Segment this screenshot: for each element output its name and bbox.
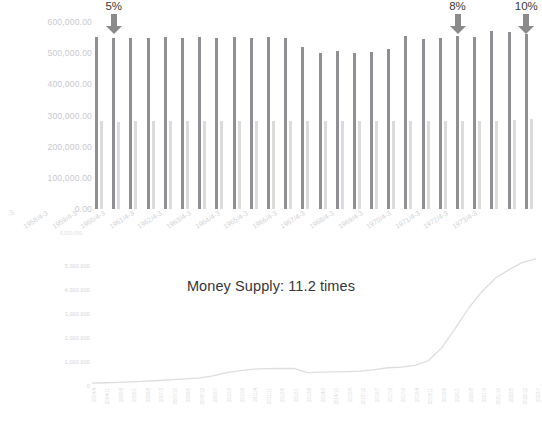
bar-series-deposits [198, 37, 201, 209]
reserve-ratio-10-label: 10% [514, 0, 538, 13]
bar-chart-x-tick: 1968/4-3 [308, 209, 335, 230]
bar-chart-y-tick: 500,000.00 [47, 48, 92, 58]
down-arrow-icon [102, 13, 126, 35]
line-chart-x-tick: 2022/12 [523, 388, 528, 405]
line-chart-x-tick: 2022/5 [509, 388, 514, 402]
bar-series-reserves [289, 121, 292, 209]
bar-series-reserves [461, 121, 464, 209]
bar-series-deposits [147, 38, 150, 209]
line-chart-x-tick: 2007/3 [159, 388, 164, 402]
line-chart-x-tick: 2004/11 [105, 388, 110, 404]
bar-series-reserves [324, 121, 327, 209]
bar-series-reserves [238, 121, 241, 209]
line-chart-x-tick: 2017/9 [401, 388, 406, 402]
bar-chart-x-tick: 1960/4-3 [79, 209, 106, 230]
bar-chart-x-tick: 1972/4-3 [422, 209, 449, 230]
bar-chart-x-tick: 1961/4-3 [108, 209, 135, 230]
bar-chart-y-tick: 300,000.00 [47, 111, 92, 121]
line-chart-x-tick: 2006/8 [146, 388, 151, 402]
bar-chart-x-tick: 1958/4-3 [22, 209, 49, 230]
line-chart-x-tick: 2011/4 [253, 388, 258, 402]
reserve-ratio-8-annotation: 8% [446, 0, 470, 35]
line-chart-x-tick: 2023/7 [536, 388, 541, 402]
line-chart-x-tick: 2016/7 [375, 388, 380, 402]
reserve-ratio-8-label: 8% [446, 0, 470, 13]
line-chart-x-tick: 2007/10 [173, 388, 178, 405]
bar-series-deposits [404, 36, 407, 209]
bar-series-deposits [456, 36, 459, 209]
line-chart-y-tick: 2,000,000 [65, 335, 90, 341]
money-supply-line [92, 242, 536, 386]
bar-series-reserves [495, 121, 498, 209]
bar-series-reserves [117, 122, 120, 209]
bar-series-deposits [301, 47, 304, 209]
bar-series-deposits [370, 52, 373, 209]
bar-series-deposits [250, 38, 253, 209]
line-chart-x-tick: 2020/8 [469, 388, 474, 402]
bar-series-deposits [439, 38, 442, 209]
bar-series-deposits [473, 37, 476, 209]
bar-series-deposits [267, 37, 270, 209]
bar-chart-x-tick: 1971/4-3 [394, 209, 421, 230]
bar-series-deposits [112, 38, 115, 209]
reserve-ratio-10-annotation: 10% [514, 0, 538, 35]
line-chart-y-tick: 5,000,000 [65, 263, 90, 269]
bar-chart-x-tick: 1965/4-3 [222, 209, 249, 230]
line-chart-x-tick: 2021/10 [496, 388, 501, 405]
line-chart-top-note: 6,000,000 [60, 230, 82, 236]
bar-series-reserves [427, 121, 430, 209]
line-chart-title: Money Supply: 11.2 times [0, 278, 542, 294]
line-chart-x-tick: 2009/7 [213, 388, 218, 402]
line-chart-y-tick: 1,000,000 [65, 359, 90, 365]
bar-series-reserves [375, 121, 378, 209]
bar-series-reserves [169, 121, 172, 209]
line-chart-x-tick: 2021/3 [482, 388, 487, 402]
bar-series-deposits [422, 39, 425, 209]
bar-chart-x-tick: -3 [6, 209, 15, 218]
line-chart-x-tick: 2018/11 [428, 388, 433, 404]
line-chart-x-tick: 2014/3 [321, 388, 326, 402]
bar-series-reserves [392, 121, 395, 209]
line-chart-x-tick: 2010/9 [240, 388, 245, 402]
bar-series-reserves [358, 121, 361, 209]
bar-series-reserves [530, 119, 533, 209]
bar-series-reserves [306, 121, 309, 209]
bar-series-reserves [272, 121, 275, 209]
bar-series-reserves [134, 121, 137, 209]
line-chart-plot-area [92, 242, 536, 386]
line-chart-x-tick: 2018/4 [415, 388, 420, 402]
down-arrow-icon [514, 13, 538, 35]
bar-chart-y-tick: 400,000.00 [47, 79, 92, 89]
bar-chart-x-tick: 1962/4-3 [136, 209, 163, 230]
bar-series-deposits [336, 51, 339, 209]
bar-chart-x-tick: 1967/4-3 [279, 209, 306, 230]
line-chart-x-tick: 2011/11 [267, 388, 272, 404]
bar-chart-x-tick: 1969/4-3 [337, 209, 364, 230]
bar-chart-y-tick: 200,000.00 [47, 142, 92, 152]
line-chart-x-tick: 2006/1 [132, 388, 137, 402]
bar-series-deposits [181, 38, 184, 209]
bar-series-deposits [215, 38, 218, 209]
bar-chart-x-tick: 1970/4-3 [365, 209, 392, 230]
line-chart-x-tick: 2013/1 [294, 388, 299, 402]
bar-series-deposits [387, 49, 390, 209]
bar-chart: 600,000.00500,000.00400,000.00300,000.00… [0, 0, 542, 250]
bar-series-reserves [186, 121, 189, 209]
bar-series-deposits [129, 38, 132, 209]
bar-chart-x-tick: 1973/4-3 [451, 209, 478, 230]
line-chart-x-tick: 2005/6 [119, 388, 124, 402]
down-arrow-icon [446, 13, 470, 35]
bar-chart-x-tick: 1963/4-3 [165, 209, 192, 230]
line-chart-y-axis: 5,000,0004,000,0003,000,0002,000,0001,00… [0, 238, 90, 386]
bar-series-deposits [233, 37, 236, 209]
bar-series-deposits [284, 38, 287, 209]
line-chart-x-axis: 2004/42004/112005/62006/12006/82007/3200… [0, 386, 542, 426]
bar-series-deposits [353, 53, 356, 209]
line-chart-x-tick: 2010/2 [227, 388, 232, 402]
line-chart-x-tick: 2020/1 [455, 388, 460, 402]
bar-chart-y-tick: 100,000.00 [47, 173, 92, 183]
bar-series-reserves [341, 121, 344, 209]
bar-chart-y-axis: 600,000.00500,000.00400,000.00300,000.00… [0, 0, 92, 215]
bar-series-deposits [508, 32, 511, 209]
line-chart-x-tick: 2015/5 [348, 388, 353, 402]
